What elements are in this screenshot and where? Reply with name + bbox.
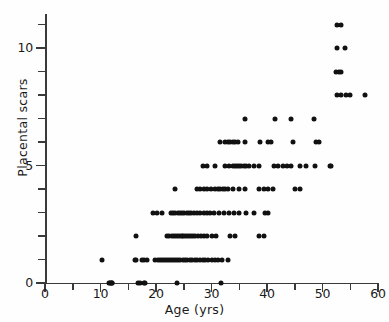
data-point — [303, 163, 308, 168]
data-point — [292, 187, 297, 192]
data-point — [339, 22, 344, 27]
data-point — [334, 46, 339, 51]
data-point — [236, 140, 241, 145]
data-point — [99, 257, 104, 262]
y-tick-9 — [38, 71, 45, 73]
x-tick-label-50: 50 — [315, 288, 331, 301]
x-tick-15 — [128, 283, 130, 290]
y-tick-label-0: 0 — [25, 277, 33, 290]
data-point — [212, 163, 217, 168]
data-point — [220, 257, 225, 262]
data-point — [290, 140, 295, 145]
y-tick-label-5: 5 — [25, 159, 33, 172]
data-point — [172, 187, 177, 192]
x-tick-label-0: 0 — [41, 288, 49, 301]
x-tick-25 — [183, 283, 185, 290]
y-tick-3 — [38, 212, 45, 214]
data-point — [219, 281, 224, 286]
x-axis-title: Age (yrs) — [0, 302, 389, 317]
data-point — [232, 234, 237, 239]
data-point — [226, 257, 231, 262]
y-tick-5 — [36, 165, 45, 167]
data-point — [329, 163, 334, 168]
x-tick-label-20: 20 — [148, 288, 164, 301]
x-tick-55 — [350, 283, 352, 290]
scatter-plot-figure: Placental scars 0510 0102030405060 Age (… — [0, 0, 389, 322]
y-tick-4 — [38, 188, 45, 190]
data-point — [339, 69, 344, 74]
data-point — [144, 257, 149, 262]
data-point — [257, 163, 262, 168]
y-tick-8 — [38, 94, 45, 96]
data-point — [242, 140, 247, 145]
data-point — [243, 210, 248, 215]
data-point — [289, 163, 294, 168]
data-point — [362, 93, 367, 98]
x-tick-35 — [239, 283, 241, 290]
data-point — [213, 234, 218, 239]
y-tick-1 — [38, 259, 45, 261]
data-point — [269, 140, 274, 145]
data-point — [134, 257, 139, 262]
data-point — [270, 187, 275, 192]
y-tick-7 — [38, 118, 45, 120]
data-point — [175, 281, 180, 286]
y-tick-6 — [38, 141, 45, 143]
data-point — [312, 163, 317, 168]
y-tick-label-10: 10 — [17, 42, 33, 55]
data-point — [266, 210, 271, 215]
plot-area — [45, 18, 378, 283]
data-point — [242, 116, 247, 121]
x-tick-45 — [294, 283, 296, 290]
x-tick-label-30: 30 — [204, 288, 220, 301]
data-point — [237, 210, 242, 215]
data-point — [342, 46, 347, 51]
data-point — [251, 163, 256, 168]
data-point — [230, 187, 235, 192]
data-point — [237, 187, 242, 192]
data-point — [251, 210, 256, 215]
data-point — [272, 116, 277, 121]
data-point — [317, 140, 322, 145]
x-tick-label-60: 60 — [370, 288, 386, 301]
y-tick-11 — [38, 24, 45, 26]
data-point — [142, 281, 147, 286]
y-tick-2 — [38, 235, 45, 237]
data-point — [159, 210, 164, 215]
data-point — [311, 116, 316, 121]
data-point — [298, 163, 303, 168]
data-point — [110, 281, 115, 286]
data-point — [348, 93, 353, 98]
x-tick-label-10: 10 — [93, 288, 109, 301]
data-point — [242, 187, 247, 192]
data-point — [231, 210, 236, 215]
data-point — [205, 163, 210, 168]
y-tick-10 — [36, 47, 45, 49]
data-point — [298, 187, 303, 192]
data-point — [289, 116, 294, 121]
x-tick-5 — [72, 283, 74, 290]
x-tick-label-40: 40 — [259, 288, 275, 301]
data-point — [258, 140, 263, 145]
data-point — [134, 234, 139, 239]
data-point — [261, 234, 266, 239]
